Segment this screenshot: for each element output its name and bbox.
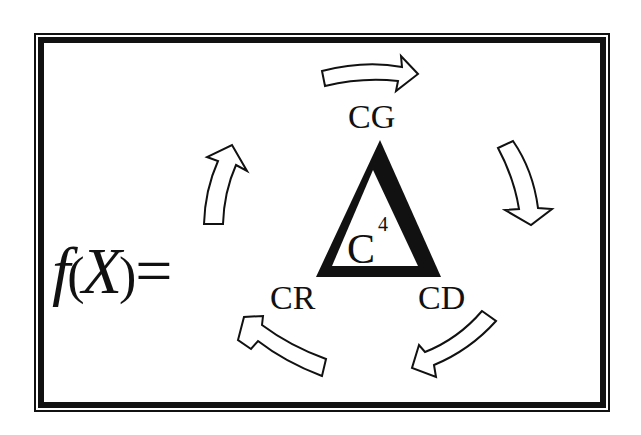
arrow-right-down-icon [498,141,552,225]
function-label: f(X)= [52,238,170,304]
open-paren: ( [67,247,81,304]
diagram-canvas [0,0,641,435]
center-superscript: 4 [378,214,388,234]
node-label-cr: CR [270,281,315,315]
arrow-bottom-left-icon [238,316,326,376]
close-paren: ) [119,247,133,304]
center-letter: C [347,228,375,270]
function-variable: X [82,234,119,307]
function-name: f [52,234,67,307]
arrow-top-right-icon [322,56,418,91]
arrow-bottom-right-icon [412,311,496,377]
node-label-cd: CD [418,281,465,315]
delta-triangle-icon [316,140,441,277]
equals-sign: = [135,234,169,307]
arrow-left-up-icon [204,145,247,224]
node-label-cg: CG [348,100,395,134]
